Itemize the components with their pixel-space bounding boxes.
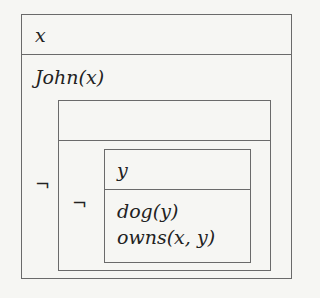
outer-condition-john: John(x) [35, 68, 104, 87]
outer-divider [21, 54, 292, 55]
inner-condition-owns: owns(x, y) [117, 228, 215, 247]
negation-symbol-outer: ¬ [35, 176, 50, 194]
negation-symbol-inner: ¬ [72, 195, 87, 213]
middle-divider [58, 140, 271, 141]
outer-universe: x [35, 26, 46, 45]
inner-condition-dog: dog(y) [117, 202, 178, 221]
inner-universe: y [117, 161, 128, 180]
inner-divider [104, 189, 251, 190]
